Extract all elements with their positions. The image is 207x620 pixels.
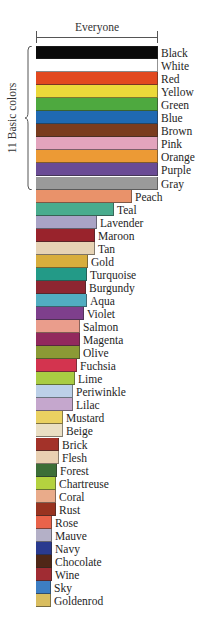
bar-rust	[36, 503, 56, 516]
bar-black	[36, 46, 158, 59]
bar-label: Gold	[91, 256, 114, 269]
bar-brown	[36, 124, 158, 137]
bar-gold	[36, 255, 88, 268]
bar-navy	[36, 542, 52, 555]
bar-lavender	[36, 216, 97, 229]
bar-pink	[36, 137, 158, 150]
bar-fuchsia	[36, 359, 77, 372]
bar-label: Aqua	[90, 295, 115, 308]
bar-lime	[36, 372, 75, 385]
bar-rose	[36, 516, 52, 529]
bar-brick	[36, 438, 59, 451]
bar-beige	[36, 424, 63, 437]
bar-goldenrod	[36, 594, 51, 607]
bar-violet	[36, 307, 84, 320]
bar-label: Chartreuse	[59, 478, 109, 491]
bar-label: Goldenrod	[54, 595, 103, 608]
bar-lilac	[36, 398, 73, 411]
bar-blue	[36, 111, 158, 124]
bar-periwinkle	[36, 385, 73, 398]
bar-label: Beige	[66, 425, 93, 438]
arrow-left-tick	[36, 31, 37, 43]
bar-orange	[36, 150, 158, 163]
bar-wine	[36, 568, 52, 581]
bar-label: Coral	[59, 491, 85, 504]
bar-label: Brown	[161, 125, 192, 138]
arrow-right-tick	[157, 31, 158, 43]
bar-label: White	[161, 60, 189, 73]
bar-forest	[36, 464, 57, 477]
bar-label: Black	[161, 47, 188, 60]
color-naming-bar-chart: Everyone 11 Basic colors BlackWhiteRedYe…	[0, 0, 207, 620]
bar-mustard	[36, 411, 63, 424]
bar-maroon	[36, 229, 95, 242]
basic-colors-label: 11 Basic colors	[6, 83, 18, 153]
bar-label: Violet	[87, 308, 115, 321]
bar-salmon	[36, 320, 80, 333]
bar-label: Brick	[62, 439, 88, 452]
span-arrow-line	[36, 37, 158, 38]
bar-chartreuse	[36, 477, 56, 490]
bar-label: Salmon	[83, 321, 118, 334]
bar-label: Turquoise	[90, 269, 136, 282]
bar-olive	[36, 346, 80, 359]
bar-label: Olive	[83, 347, 109, 360]
bar-label: Rose	[55, 517, 78, 530]
bar-label: Lilac	[76, 399, 100, 412]
bar-label: Lime	[78, 373, 102, 386]
bar-flesh	[36, 451, 59, 464]
bar-label: Wine	[55, 569, 79, 582]
bar-burgundy	[36, 281, 86, 294]
bar-label: Pink	[161, 138, 182, 151]
bar-label: Mustard	[66, 412, 104, 425]
bar-label: Gray	[161, 178, 184, 191]
bar-sky	[36, 581, 51, 594]
bar-yellow	[36, 85, 158, 98]
bar-label: Blue	[161, 112, 183, 125]
bar-teal	[36, 203, 114, 216]
bar-mauve	[36, 529, 52, 542]
bar-label: Tan	[98, 243, 115, 256]
bar-label: Chocolate	[55, 556, 102, 569]
bar-red	[36, 72, 158, 85]
bar-chocolate	[36, 555, 52, 568]
bar-purple	[36, 163, 158, 176]
bar-label: Forest	[60, 465, 89, 478]
bar-label: Yellow	[161, 86, 194, 99]
brace-icon	[25, 46, 33, 190]
bar-label: Magenta	[83, 334, 123, 347]
bar-turquoise	[36, 268, 87, 281]
bar-tan	[36, 242, 95, 255]
bar-label: Peach	[135, 191, 162, 204]
bar-label: Green	[161, 99, 189, 112]
bar-label: Purple	[161, 164, 191, 177]
bar-peach	[36, 190, 132, 203]
bar-label: Periwinkle	[76, 386, 126, 399]
bar-label: Mauve	[55, 530, 87, 543]
bar-green	[36, 98, 158, 111]
bar-label: Red	[161, 73, 180, 86]
bar-label: Sky	[54, 582, 72, 595]
bar-label: Teal	[117, 204, 137, 217]
bar-coral	[36, 490, 56, 503]
bar-gray	[36, 177, 158, 190]
bar-label: Burgundy	[89, 282, 135, 295]
bar-white	[36, 59, 158, 72]
bar-label: Fuchsia	[80, 360, 116, 373]
chart-title: Everyone	[36, 20, 158, 34]
bar-label: Flesh	[62, 452, 87, 465]
bar-label: Maroon	[98, 230, 134, 243]
bar-label: Lavender	[100, 217, 143, 230]
bar-label: Orange	[161, 151, 195, 164]
bar-label: Navy	[55, 543, 80, 556]
bar-aqua	[36, 294, 87, 307]
bar-label: Rust	[59, 504, 80, 517]
bar-magenta	[36, 333, 80, 346]
